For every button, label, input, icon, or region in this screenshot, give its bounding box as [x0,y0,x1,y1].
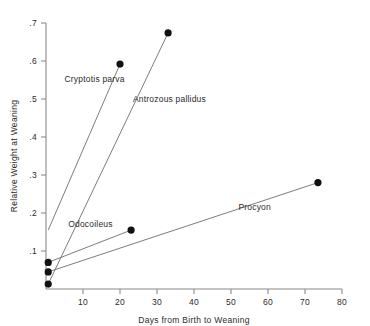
x-axis-tick-label: 30 [152,297,162,307]
data-point [116,60,123,67]
data-point [314,179,321,186]
series-group [45,29,322,287]
x-axis-tick-label: 50 [226,297,236,307]
series-line-1 [48,33,168,284]
y-axis-tick-label: .5 [29,94,37,104]
x-axis-tick-label: 40 [189,297,199,307]
y-axis-tick-label: .6 [29,56,37,66]
x-axis-tick-label: 20 [115,297,125,307]
data-point [45,259,52,266]
x-axis-title: Days from Birth to Weaning [138,315,250,325]
data-point [45,280,52,287]
y-axis-tick-label: .2 [29,208,37,218]
data-point [128,227,135,234]
x-axis-tick-label: 60 [263,297,273,307]
y-axis-title: Relative Weight at Weaning [9,100,19,212]
y-axis-tick-label: .3 [29,170,37,180]
y-axis-tick-label: .4 [29,132,37,142]
y-axis-tick-label: .7 [29,18,37,28]
x-axis-tick-label: 70 [300,297,310,307]
series-label-3: Procyon [238,202,271,212]
series-line-0 [48,64,120,230]
series-label-1: Antrozous pallidus [133,94,206,104]
x-axis-tick-label: 10 [78,297,88,307]
series-line-2 [48,230,131,262]
x-axis-tick-label: 80 [337,297,347,307]
series-label-0: Cryptotis parva [65,74,125,84]
data-point [45,268,52,275]
series-label-2: Odocoileus [68,219,113,229]
chart-plot-area: .1.2.3.4.5.6.71020304050607080 Cryptotis… [0,0,370,326]
series-labels-group: Cryptotis parvaAntrozous pallidusOdocoil… [65,74,272,229]
chart-container: .1.2.3.4.5.6.71020304050607080 Cryptotis… [0,0,370,326]
data-point [165,29,172,36]
y-axis-tick-label: .1 [29,246,37,256]
